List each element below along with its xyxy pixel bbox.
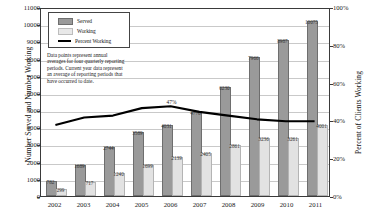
y-tick-mark-left (37, 128, 40, 129)
y-tick-mark-left (37, 111, 40, 112)
y-tick-mark-left (37, 77, 40, 78)
legend-swatch-line-icon (58, 40, 71, 42)
y-tick-left: 3000 (10, 141, 40, 148)
x-axis-label: 2007 (193, 201, 207, 208)
y-tick-left: 8000 (10, 56, 40, 63)
y-tick-right: 80% (333, 42, 363, 49)
y-tick-left: 1000 (10, 176, 40, 183)
legend-item-served: Served (49, 16, 129, 26)
x-axis-label: 2008 (222, 201, 236, 208)
y-axis-left-title: Number Served and Number Working (24, 30, 33, 180)
y-tick-mark-left (37, 163, 40, 164)
x-axis-label: 2010 (280, 201, 294, 208)
x-axis-label: 2004 (106, 201, 120, 208)
y-tick-mark-left (37, 94, 40, 95)
y-tick-mark-left (37, 180, 40, 181)
y-tick-left: 11000 (10, 4, 40, 11)
y-tick-mark-right (330, 8, 333, 9)
y-tick-mark-right (330, 121, 333, 122)
y-tick-left: 4000 (10, 124, 40, 131)
x-axis-label: 2011 (309, 201, 322, 208)
y-tick-mark-left (37, 42, 40, 43)
y-tick-mark-right (330, 46, 333, 47)
x-axis-label: 2002 (48, 201, 62, 208)
chart-container: Number Served and Number Working Percent… (0, 0, 373, 224)
chart-annotation-note: Data points represent annual averages fo… (47, 52, 127, 84)
y-tick-right: 40% (333, 117, 363, 124)
y-tick-right: 100% (333, 4, 363, 11)
x-axis-label: 2009 (251, 201, 265, 208)
y-tick-mark-right (330, 197, 333, 198)
y-tick-mark-left (37, 145, 40, 146)
x-axis-label: 2006 (164, 201, 178, 208)
y-tick-left: 9000 (10, 38, 40, 45)
y-tick-left: 10000 (10, 21, 40, 28)
legend-swatch-working-icon (58, 28, 73, 35)
y-tick-left: 2000 (10, 159, 40, 166)
legend-label-served: Served (77, 18, 92, 24)
y-tick-right: 0% (333, 193, 363, 200)
y-tick-left: 6000 (10, 90, 40, 97)
y-tick-mark-left (37, 60, 40, 61)
chart-legend: Served Working Percent Working (48, 12, 130, 48)
y-tick-right: 20% (333, 155, 363, 162)
legend-item-percent-working: Percent Working (49, 36, 129, 46)
legend-label-percent-working: Percent Working (75, 38, 111, 44)
y-tick-mark-right (330, 84, 333, 85)
y-tick-mark-left (37, 197, 40, 198)
x-axis-label: 2005 (135, 201, 149, 208)
y-tick-left: 0 (10, 193, 40, 200)
line-point-label: 47% (167, 99, 177, 105)
y-tick-left: 5000 (10, 107, 40, 114)
legend-swatch-served-icon (58, 18, 73, 25)
percent-working-line (55, 106, 314, 125)
legend-item-working: Working (49, 26, 129, 36)
y-tick-mark-left (37, 8, 40, 9)
legend-label-working: Working (77, 28, 96, 34)
y-tick-mark-right (330, 159, 333, 160)
x-axis-label: 2003 (77, 201, 91, 208)
y-tick-mark-left (37, 25, 40, 26)
y-tick-right: 60% (333, 80, 363, 87)
y-tick-left: 7000 (10, 73, 40, 80)
